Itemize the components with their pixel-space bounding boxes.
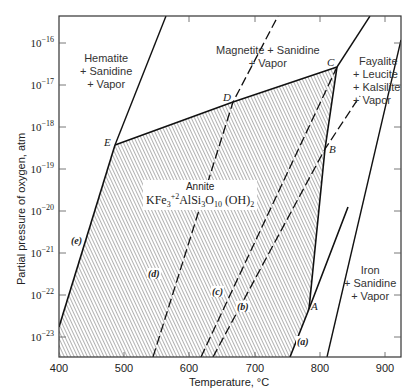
curve-label-d: (d) bbox=[147, 268, 161, 279]
y-tick-label: 10−17 bbox=[14, 77, 54, 91]
field-label-fayalite: Fayalite + Leucite + Kalsilite + Vapor bbox=[353, 55, 400, 107]
x-tick-label: 700 bbox=[240, 362, 270, 374]
point-label-A: A bbox=[311, 300, 318, 312]
point-label-B: B bbox=[329, 143, 336, 155]
annite-formula: KFe3+2AlSi3O10 (OH)2 bbox=[146, 192, 254, 209]
field-label-magnetite: Magnetite + Sanidine + Vapor bbox=[216, 44, 320, 70]
y-tick-label: 10−22 bbox=[14, 287, 54, 301]
y-tick-label: 10−16 bbox=[14, 35, 54, 49]
x-tick-label: 400 bbox=[44, 362, 74, 374]
x-tick-label: 500 bbox=[109, 362, 139, 374]
field-label-annite: Annite KFe3+2AlSi3O10 (OH)2 bbox=[143, 180, 257, 210]
y-tick-label: 10−23 bbox=[14, 329, 54, 343]
x-axis-label: Temperature, °C bbox=[189, 376, 269, 388]
point-label-D: D bbox=[223, 91, 231, 103]
y-tick-label: 10−18 bbox=[14, 119, 54, 133]
curve-label-a: (a) bbox=[296, 336, 310, 347]
y-axis-label: Partial pressure of oxygen, atm bbox=[15, 133, 27, 285]
curve-label-c: (c) bbox=[211, 286, 224, 297]
x-tick-label: 600 bbox=[174, 362, 204, 374]
point-label-E: E bbox=[104, 136, 111, 148]
curve-label-b: (b) bbox=[236, 301, 250, 312]
curve-label-e: (e) bbox=[70, 235, 83, 246]
x-tick-label: 900 bbox=[370, 362, 400, 374]
field-label-hematite: Hematite + Sanidine + Vapor bbox=[80, 52, 132, 91]
x-tick-label: 800 bbox=[305, 362, 335, 374]
point-label-C: C bbox=[327, 56, 334, 68]
field-label-iron: Iron + Sanidine + Vapor bbox=[344, 264, 396, 303]
